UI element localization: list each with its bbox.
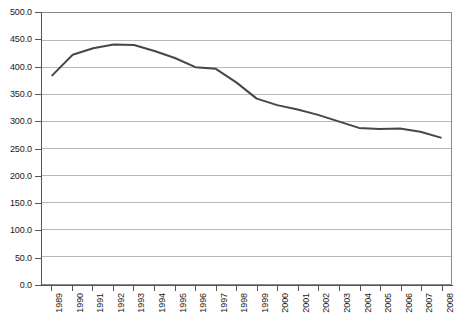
x-tick-label: 1998 [240, 293, 249, 313]
x-tick-label: 1989 [55, 293, 64, 313]
y-tick-label: 150.0 [10, 199, 32, 208]
y-tick-label: 50.0 [15, 253, 32, 262]
x-tick-label: 2001 [302, 293, 311, 313]
x-tick-label: 2002 [322, 293, 331, 313]
x-tick-label: 1990 [76, 293, 85, 313]
data-series-line [42, 13, 451, 284]
x-tick-label: 1991 [96, 293, 105, 313]
x-tick-label: 1997 [220, 293, 229, 313]
y-tick-mark [35, 39, 41, 40]
x-tick-mark [257, 286, 258, 291]
x-tick-label: 1995 [179, 293, 188, 313]
x-tick-mark [318, 286, 319, 291]
x-tick-label: 2006 [405, 293, 414, 313]
x-tick-mark [421, 286, 422, 291]
x-tick-label: 1996 [199, 293, 208, 313]
x-tick-mark [133, 286, 134, 291]
y-tick-label: 450.0 [10, 35, 32, 44]
x-tick-mark [72, 286, 73, 291]
y-tick-mark [35, 121, 41, 122]
x-tick-label: 1999 [261, 293, 270, 313]
x-tick-mark [360, 286, 361, 291]
x-tick-label: 1994 [158, 293, 167, 313]
x-tick-mark [298, 286, 299, 291]
y-tick-mark [35, 12, 41, 13]
x-tick-mark [277, 286, 278, 291]
y-axis-spine [41, 12, 42, 286]
y-tick-label: 500.0 [10, 8, 32, 17]
x-tick-mark [195, 286, 196, 291]
y-tick-mark [35, 230, 41, 231]
plot-area [41, 12, 452, 285]
x-tick-label: 1992 [117, 293, 126, 313]
y-tick-label: 250.0 [10, 144, 32, 153]
x-tick-mark [380, 286, 381, 291]
y-tick-label: 300.0 [10, 117, 32, 126]
x-tick-label: 2000 [281, 293, 290, 313]
y-tick-label: 100.0 [10, 226, 32, 235]
x-tick-label: 2003 [343, 293, 352, 313]
y-tick-label: 400.0 [10, 62, 32, 71]
x-tick-mark [236, 286, 237, 291]
y-tick-mark [35, 203, 41, 204]
y-tick-label: 0.0 [20, 281, 32, 290]
x-tick-label: 2007 [425, 293, 434, 313]
x-tick-label: 2005 [384, 293, 393, 313]
y-tick-mark [35, 67, 41, 68]
y-tick-mark [35, 176, 41, 177]
y-tick-label: 200.0 [10, 171, 32, 180]
x-tick-mark [92, 286, 93, 291]
y-tick-mark [35, 285, 41, 286]
x-tick-mark [216, 286, 217, 291]
line-chart: 0.050.0100.0150.0200.0250.0300.0350.0400… [0, 0, 458, 320]
x-tick-mark [51, 286, 52, 291]
x-axis-spine [41, 285, 453, 286]
x-tick-mark [154, 286, 155, 291]
y-tick-mark [35, 149, 41, 150]
y-axis: 0.050.0100.0150.0200.0250.0300.0350.0400… [0, 0, 36, 320]
x-tick-mark [401, 286, 402, 291]
x-tick-mark [113, 286, 114, 291]
x-tick-label: 2008 [446, 293, 455, 313]
x-tick-label: 2004 [364, 293, 373, 313]
x-tick-mark [175, 286, 176, 291]
x-tick-mark [339, 286, 340, 291]
x-tick-label: 1993 [137, 293, 146, 313]
x-tick-mark [442, 286, 443, 291]
y-tick-mark [35, 94, 41, 95]
y-tick-mark [35, 258, 41, 259]
y-tick-label: 350.0 [10, 89, 32, 98]
